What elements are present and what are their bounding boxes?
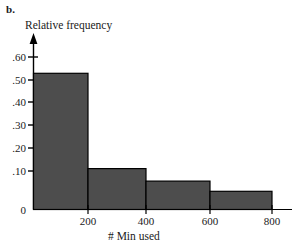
y-axis-arrow-icon xyxy=(30,33,38,44)
y-tick-label: .10 xyxy=(12,165,26,177)
bars xyxy=(34,73,273,209)
x-tick-labels: 200 400 600 800 xyxy=(80,215,281,227)
x-tick-label: 200 xyxy=(80,215,97,227)
x-tick-label: 400 xyxy=(138,215,155,227)
part-label: b. xyxy=(6,3,15,15)
histogram-figure: b. Relative frequency .60 .50 .40 .30 .2… xyxy=(0,0,301,250)
y-tick-label: .30 xyxy=(12,119,26,131)
x-tick-label: 800 xyxy=(264,215,281,227)
y-tick-label: 0 xyxy=(21,204,27,216)
y-tick-label: .40 xyxy=(12,96,26,108)
histogram-plot: .60 .50 .40 .30 .20 .10 0 200 400 600 xyxy=(0,0,301,250)
x-tick-label: 600 xyxy=(202,215,219,227)
y-tick-label: .20 xyxy=(12,142,26,154)
bar-bin-600-800 xyxy=(210,191,272,209)
bar-bin-400-600 xyxy=(146,181,210,209)
x-axis-title: # Min used xyxy=(108,230,160,242)
y-tick-label: .50 xyxy=(12,74,26,86)
bar-bin-0-200 xyxy=(34,73,89,209)
y-tick-label: .60 xyxy=(12,51,26,63)
y-axis-title: Relative frequency xyxy=(25,19,112,31)
bar-bin-200-400 xyxy=(88,169,146,210)
y-tick-labels: .60 .50 .40 .30 .20 .10 0 xyxy=(12,51,26,216)
